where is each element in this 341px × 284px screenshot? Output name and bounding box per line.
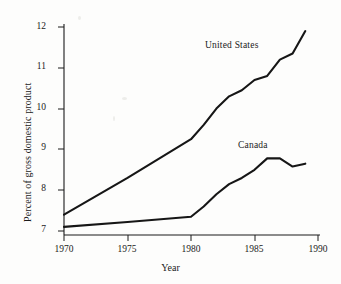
- x-axis-ticks: [64, 235, 318, 241]
- y-axis-ticks: [58, 27, 64, 231]
- chart-plot-area: [0, 0, 341, 284]
- chart-figure: Percent of gross domestic product 12 11 …: [0, 0, 341, 284]
- series-line-united-states: [64, 31, 305, 215]
